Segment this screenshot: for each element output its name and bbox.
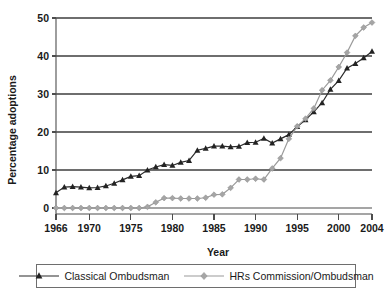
legend-item-hrs[interactable]: HRs Commission/Ombudsman [183, 270, 373, 282]
x-tick-label-1995: 1995 [285, 222, 309, 234]
data-point [203, 195, 209, 201]
data-point [78, 205, 84, 211]
data-point [61, 205, 67, 211]
y-tick-label-40: 40 [37, 50, 49, 62]
data-point [111, 205, 117, 211]
x-tick-label-2000: 2000 [327, 222, 351, 234]
series-line-classical [56, 51, 372, 192]
data-point [145, 204, 151, 210]
series-layer [53, 20, 375, 211]
data-point [344, 50, 350, 56]
legend-label-classical: Classical Ombudsman [64, 270, 169, 282]
data-point [369, 48, 375, 54]
data-point [352, 61, 358, 67]
x-tick-label-1990: 1990 [244, 222, 268, 234]
y-tick-label-0: 0 [43, 202, 49, 214]
data-point [253, 176, 259, 182]
data-point [211, 192, 217, 198]
line-chart: 01020304050 1966197019751980198519901995… [0, 0, 392, 262]
chart-legend: Classical Ombudsman HRs Commission/Ombud… [36, 264, 356, 288]
figure-container: 01020304050 1966197019751980198519901995… [0, 0, 392, 297]
x-tick-group [56, 214, 372, 220]
data-point [194, 196, 200, 202]
y-tick-label-50: 50 [37, 12, 49, 24]
data-point [161, 195, 167, 201]
x-tick-label-1966: 1966 [44, 222, 68, 234]
caption-strip [22, 290, 372, 297]
x-tick-label-1985: 1985 [202, 222, 226, 234]
data-point [128, 205, 134, 211]
diamond-marker-icon [183, 270, 225, 282]
triangle-marker-icon [18, 270, 60, 282]
y-tick-label-group: 01020304050 [37, 12, 56, 214]
data-point [103, 205, 109, 211]
data-point [136, 205, 142, 211]
data-point [170, 195, 176, 201]
x-axis-title: Year [207, 246, 229, 258]
y-axis-title: Percentage adoptions [6, 75, 18, 185]
data-point [120, 205, 126, 211]
x-tick-label-group: 196619701975198019851990199520002004 [44, 222, 384, 234]
data-point [153, 199, 159, 205]
data-point [269, 140, 275, 146]
series-markers-classical [53, 48, 375, 195]
data-point [186, 196, 192, 202]
data-point [336, 64, 342, 70]
data-point [178, 196, 184, 202]
legend-item-classical[interactable]: Classical Ombudsman [18, 270, 169, 282]
axis-group [56, 18, 372, 214]
x-tick-label-1980: 1980 [161, 222, 185, 234]
data-point [344, 65, 350, 71]
y-tick-label-20: 20 [37, 126, 49, 138]
data-point [95, 205, 101, 211]
y-tick-label-10: 10 [37, 164, 49, 176]
data-point [53, 190, 59, 196]
data-point [86, 205, 92, 211]
data-point [53, 205, 59, 211]
data-point [70, 205, 76, 211]
data-point [261, 135, 267, 141]
series-markers-hrs [53, 20, 375, 211]
data-point [369, 20, 375, 26]
x-tick-label-1970: 1970 [78, 222, 102, 234]
x-tick-label-1975: 1975 [119, 222, 143, 234]
y-tick-label-30: 30 [37, 88, 49, 100]
series-line-hrs [56, 23, 372, 208]
legend-label-hrs: HRs Commission/Ombudsman [229, 270, 373, 282]
data-point [244, 177, 250, 183]
x-tick-label-2004: 2004 [360, 222, 384, 234]
data-point [278, 136, 284, 142]
